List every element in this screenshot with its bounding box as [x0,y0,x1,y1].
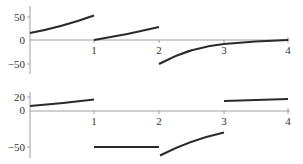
top-xtick-label-1: 1 [91,44,97,56]
top-curve-segment-2 [94,27,159,40]
bottom-ytick-label-0: 0 [20,104,26,116]
bottom-ytick-label-20: 20 [14,91,26,103]
bottom-curve-segment-3 [160,133,224,156]
top-ytick-label-50: 50 [14,11,26,23]
chart-canvas: 50 0 −50 1 2 3 4 20 0 −50 1 2 3 4 [0,0,303,164]
bottom-xtick-label-2: 2 [156,115,162,127]
bottom-curve-segment-4 [224,99,288,101]
top-xtick-label-2: 2 [156,44,162,56]
bottom-ytick-label-neg50: −50 [8,141,26,153]
bottom-curve-segment-1 [30,100,94,107]
top-ytick-label-neg50: −50 [8,58,26,70]
bottom-xtick-label-3: 3 [221,115,227,127]
top-curve-segment-1 [30,16,94,34]
top-xtick-label-3: 3 [221,44,227,56]
bottom-xtick-label-1: 1 [91,115,97,127]
bottom-plot: 20 0 −50 1 2 3 4 [8,91,291,158]
top-xtick-label-4: 4 [285,44,291,56]
top-plot: 50 0 −50 1 2 3 4 [8,6,291,74]
top-ytick-label-0: 0 [20,34,26,46]
bottom-xtick-label-4: 4 [285,115,291,127]
